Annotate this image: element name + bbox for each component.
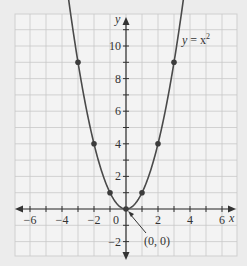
y-tick-label: 6: [115, 104, 121, 118]
data-point: [123, 206, 129, 212]
y-tick-label: 4: [115, 137, 121, 151]
x-tick-label: 6: [219, 213, 225, 227]
y-tick-label: 8: [115, 72, 121, 86]
data-point: [91, 141, 97, 147]
parabola-chart: −6−4−20246−2246810 y = x2 x y (0, 0): [0, 0, 247, 266]
data-point: [75, 60, 81, 66]
x-tick-label: −6: [24, 213, 37, 227]
data-point: [155, 141, 161, 147]
x-tick-label: 2: [155, 213, 161, 227]
x-tick-label: −2: [88, 213, 101, 227]
data-point: [139, 190, 145, 196]
data-point: [107, 190, 113, 196]
y-tick-label: 10: [109, 39, 121, 53]
data-point: [171, 60, 177, 66]
x-axis-label: x: [228, 211, 235, 225]
x-tick-label: 4: [187, 213, 193, 227]
y-tick-label: 2: [115, 169, 121, 183]
y-axis-label: y: [114, 12, 121, 26]
curve-label: y = x2: [181, 32, 210, 47]
origin-label: (0, 0): [144, 234, 170, 248]
x-tick-label: −4: [56, 213, 69, 227]
x-tick-label: 0: [113, 213, 119, 227]
y-tick-label: −2: [108, 235, 121, 249]
